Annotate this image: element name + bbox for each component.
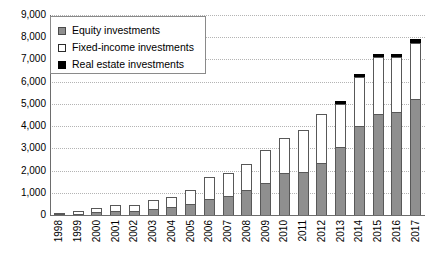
bar-stack: [241, 164, 252, 215]
gridline: [50, 82, 425, 83]
stacked-bar-chart: 9,0008,0007,0006,0005,0004,0003,0002,000…: [0, 0, 432, 264]
gray-square-icon: [58, 27, 66, 35]
gridline: [50, 171, 425, 172]
y-axis-tick-label: 6,000: [2, 77, 46, 87]
bar-stack: [91, 208, 102, 215]
x-axis-tick-label: 2011: [298, 220, 308, 242]
bar-segment-fixed-income: [410, 43, 421, 101]
x-axis-tick-label: 2007: [223, 220, 233, 242]
x-axis-tick-label: 2013: [336, 220, 346, 242]
x-axis-tick-label: 1998: [54, 220, 64, 242]
gridline: [50, 126, 425, 127]
bar-stack: [204, 177, 215, 215]
x-axis-tick-label: 1999: [73, 220, 83, 242]
bar-segment-equity: [410, 99, 421, 216]
x-axis-tick-label: 2016: [392, 220, 402, 242]
white-square-icon: [58, 44, 66, 52]
bar-stack: [110, 205, 121, 215]
x-axis-tick-label: 2014: [354, 220, 364, 242]
bar-segment-equity: [298, 172, 309, 216]
bar-segment-fixed-income: [241, 164, 252, 192]
bar-stack: [223, 173, 234, 215]
x-axis-tick-label: 2001: [111, 220, 121, 242]
bar-stack: [185, 190, 196, 215]
x-axis-tick-label: 2009: [261, 220, 271, 242]
bar-segment-fixed-income: [260, 150, 271, 183]
bar-segment-equity: [316, 163, 327, 216]
black-square-icon: [58, 61, 66, 69]
y-axis-tick-label: 8,000: [2, 32, 46, 42]
bar-stack: [260, 150, 271, 215]
bar-segment-equity: [354, 126, 365, 216]
x-axis-tick-label: 2008: [242, 220, 252, 242]
y-axis-tick-label: 5,000: [2, 99, 46, 109]
bar-segment-fixed-income: [391, 57, 402, 113]
legend-label-fixed-income: Fixed-income investments: [72, 42, 194, 53]
bar-stack: [391, 54, 402, 215]
bar-segment-equity: [373, 114, 384, 216]
legend-label-real-estate: Real estate investments: [72, 59, 184, 70]
legend-item-equity: Equity investments: [58, 22, 199, 39]
bar-segment-equity: [204, 199, 215, 216]
bar-segment-equity: [260, 183, 271, 216]
bar-segment-fixed-income: [316, 114, 327, 164]
bar-segment-fixed-income: [373, 57, 384, 115]
x-axis-tick-label: 2005: [186, 220, 196, 242]
y-axis-tick-label: 3,000: [2, 143, 46, 153]
x-axis-tick-label: 2017: [411, 220, 421, 242]
bar-stack: [148, 200, 159, 215]
bar-segment-equity: [223, 196, 234, 216]
x-axis-tick-label: 2006: [204, 220, 214, 242]
x-axis-tick-label: 2002: [129, 220, 139, 242]
x-axis-tick-label: 2003: [148, 220, 158, 242]
gridline: [50, 104, 425, 105]
x-axis-tick-label: 2015: [373, 220, 383, 242]
legend-label-equity: Equity investments: [72, 25, 160, 36]
bar-stack: [129, 205, 140, 215]
bar-stack: [166, 197, 177, 215]
bar-segment-fixed-income: [279, 138, 290, 174]
bar-segment-fixed-income: [185, 190, 196, 204]
bar-segment-fixed-income: [354, 77, 365, 127]
bar-segment-equity: [391, 112, 402, 216]
bar-segment-fixed-income: [335, 104, 346, 148]
chart-legend: Equity investments Fixed-income investme…: [50, 16, 206, 74]
legend-item-fixed-income: Fixed-income investments: [58, 39, 199, 56]
bar-segment-fixed-income: [204, 177, 215, 200]
bar-segment-equity: [279, 173, 290, 216]
y-axis-labels: 9,0008,0007,0006,0005,0004,0003,0002,000…: [0, 0, 46, 264]
bar-stack: [373, 54, 384, 215]
y-axis-tick-label: 9,000: [2, 10, 46, 20]
y-axis-tick-label: 7,000: [2, 54, 46, 64]
bar-stack: [410, 39, 421, 215]
bar-segment-equity: [335, 147, 346, 216]
x-axis-tick-label: 2010: [279, 220, 289, 242]
bar-segment-fixed-income: [298, 130, 309, 172]
legend-item-real-estate: Real estate investments: [58, 56, 199, 73]
bar-stack: [335, 101, 346, 215]
x-axis-tick-label: 2004: [167, 220, 177, 242]
y-axis-tick-label: 4,000: [2, 121, 46, 131]
x-axis-line: [50, 215, 425, 216]
y-axis-tick-label: 0: [2, 210, 46, 220]
gridline: [50, 148, 425, 149]
gridline: [50, 193, 425, 194]
y-axis-tick-label: 1,000: [2, 188, 46, 198]
x-axis-tick-label: 2000: [92, 220, 102, 242]
bar-stack: [354, 74, 365, 215]
bar-stack: [316, 114, 327, 215]
y-axis-tick-label: 2,000: [2, 166, 46, 176]
bar-stack: [298, 130, 309, 215]
bar-segment-equity: [241, 190, 252, 216]
bar-stack: [279, 138, 290, 215]
x-axis-tick-label: 2012: [317, 220, 327, 242]
bar-segment-fixed-income: [223, 173, 234, 197]
